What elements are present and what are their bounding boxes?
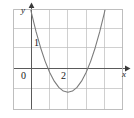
x-axis-label: x (122, 70, 126, 79)
y-axis-label: y (21, 6, 25, 15)
x-tick-label-2: 2 (61, 71, 66, 81)
origin-tick-label: 0 (21, 71, 26, 81)
plot-background (14, 10, 123, 110)
y-axis-arrowhead (29, 3, 35, 9)
plot-canvas (0, 0, 134, 118)
parabola-graph-figure: y x 0 1 2 (0, 0, 134, 118)
y-tick-label-1: 1 (34, 38, 39, 48)
